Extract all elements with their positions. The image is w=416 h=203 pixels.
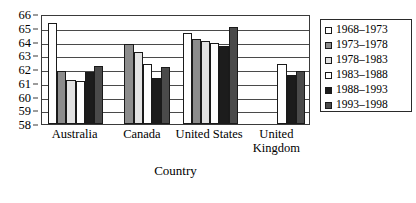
legend-label: 1988–1993 — [336, 84, 388, 96]
y-tick-mark — [33, 125, 38, 126]
x-tick-label: United Kingdom — [245, 128, 307, 155]
bar — [66, 80, 75, 124]
legend-swatch-icon — [325, 87, 332, 94]
legend-swatch-icon — [325, 27, 332, 34]
bar-chart: 666564636261605958 AustraliaCanadaUnited… — [0, 0, 416, 203]
x-axis-title: Country — [41, 163, 310, 179]
plot-area — [41, 15, 310, 125]
bar — [94, 66, 103, 124]
legend-label: 1993–1998 — [336, 99, 388, 111]
bar — [124, 44, 133, 124]
bar — [143, 64, 152, 124]
legend-item[interactable]: 1983–1988 — [325, 68, 411, 82]
y-tick-label: 61 — [19, 78, 32, 90]
legend-swatch-icon — [325, 42, 332, 49]
bar — [48, 23, 57, 124]
x-axis-category-labels: AustraliaCanadaUnited StatesUnited Kingd… — [41, 128, 310, 162]
y-tick-mark — [33, 56, 38, 57]
y-tick-mark — [33, 15, 38, 16]
y-tick-label: 65 — [19, 23, 32, 35]
legend-swatch-icon — [325, 72, 332, 79]
bar — [287, 75, 296, 125]
bar — [134, 52, 143, 124]
x-tick-label: Canada — [123, 128, 160, 142]
legend-item[interactable]: 1993–1998 — [325, 98, 411, 112]
y-tick-mark — [33, 97, 38, 98]
y-tick-mark — [33, 83, 38, 84]
legend-item[interactable]: 1978–1983 — [325, 53, 411, 67]
y-tick-label: 62 — [19, 64, 32, 76]
legend-item[interactable]: 1988–1993 — [325, 83, 411, 97]
y-tick-label: 60 — [19, 92, 32, 104]
y-tick-mark — [33, 111, 38, 112]
y-tick-label: 63 — [19, 50, 32, 62]
bar — [57, 71, 66, 124]
legend-label: 1983–1988 — [336, 69, 388, 81]
bar — [152, 78, 161, 124]
x-tick-label: Australia — [52, 128, 98, 142]
y-tick-label: 59 — [19, 105, 32, 117]
bar — [85, 72, 94, 124]
bar — [76, 81, 85, 124]
legend-item[interactable]: 1973–1978 — [325, 38, 411, 52]
bar — [296, 71, 305, 124]
bar — [183, 33, 192, 124]
y-tick-label: 64 — [19, 37, 32, 49]
y-tick-label: 58 — [19, 119, 32, 131]
legend-label: 1978–1983 — [336, 54, 388, 66]
y-tick-mark — [33, 70, 38, 71]
bar — [192, 39, 201, 124]
bars-layer — [42, 16, 309, 124]
y-tick-mark — [33, 42, 38, 43]
bar — [161, 67, 170, 124]
bar — [210, 43, 219, 124]
bar — [219, 46, 228, 124]
bar — [277, 64, 286, 124]
legend-swatch-icon — [325, 57, 332, 64]
legend-label: 1968–1973 — [336, 24, 388, 36]
legend: 1968–19731973–19781978–19831983–19881988… — [320, 19, 412, 112]
x-tick-label: United States — [176, 128, 243, 142]
legend-item[interactable]: 1968–1973 — [325, 23, 411, 37]
y-axis: 666564636261605958 — [0, 15, 38, 125]
y-tick-label: 66 — [19, 9, 32, 21]
bar — [201, 41, 210, 124]
legend-swatch-icon — [325, 102, 332, 109]
bar — [229, 27, 238, 124]
y-tick-mark — [33, 28, 38, 29]
legend-label: 1973–1978 — [336, 39, 388, 51]
